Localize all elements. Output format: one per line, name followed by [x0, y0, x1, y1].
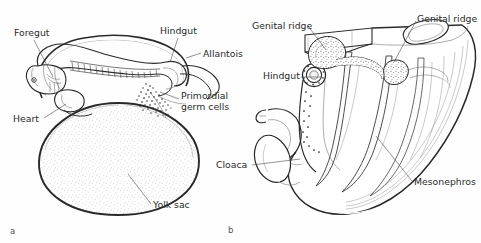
somite-series — [70, 61, 160, 78]
label-hindgut: Hindgut — [160, 25, 197, 36]
label-cloaca: Cloaca — [216, 159, 247, 170]
label-primordial-germ-cells-line2: germ cells — [181, 101, 229, 112]
leader-allantois — [186, 53, 201, 58]
panel-a: Foregut Hindgut Allantois Primordial ger… — [10, 25, 243, 236]
panel-letter-b: b — [228, 225, 233, 235]
label-genital-ridge-left: Genital ridge — [252, 20, 312, 31]
label-foregut: Foregut — [14, 27, 50, 38]
panel-letter-a: a — [10, 226, 15, 236]
label-genital-ridge-right: Genital ridge — [417, 13, 477, 24]
label-mesonephros: Mesonephros — [414, 176, 476, 187]
leader-germ-cells — [160, 92, 179, 99]
figure-canvas: Foregut Hindgut Allantois Primordial ger… — [0, 0, 481, 243]
label-hindgut-b: Hindgut — [263, 70, 300, 81]
genital-ridge-right-shape — [384, 60, 409, 85]
panel-b: Genital ridge Genital ridge Hindgut Cloa… — [216, 13, 477, 235]
label-primordial-germ-cells-line1: Primordial — [181, 90, 228, 101]
label-yolk-sac: Yolk sac — [152, 199, 190, 210]
label-allantois: Allantois — [203, 48, 243, 59]
figure-embryo-germ-cell-migration: Foregut Hindgut Allantois Primordial ger… — [0, 0, 481, 243]
label-heart: Heart — [13, 113, 39, 124]
